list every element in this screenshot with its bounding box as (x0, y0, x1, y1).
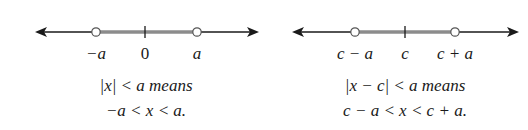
number-line-left (35, 26, 259, 38)
caption-line-1: |x| < a means (99, 76, 192, 96)
tick-label: c − a (337, 44, 373, 64)
caption-line-2: c − a < x < c + a. (343, 101, 467, 121)
open-circle-icon (193, 28, 201, 36)
open-circle-icon (451, 28, 459, 36)
open-circle-icon (351, 28, 359, 36)
tick-label: c + a (437, 44, 473, 64)
tick-label: a (193, 44, 202, 64)
caption-line-1: |x − c| < a means (345, 76, 466, 96)
number-line-right (292, 26, 519, 38)
tick-label: −a (86, 44, 106, 64)
caption-line-2: −a < x < a. (106, 101, 186, 121)
tick-label: 0 (141, 44, 150, 64)
tick-label: c (401, 44, 409, 64)
open-circle-icon (92, 28, 100, 36)
